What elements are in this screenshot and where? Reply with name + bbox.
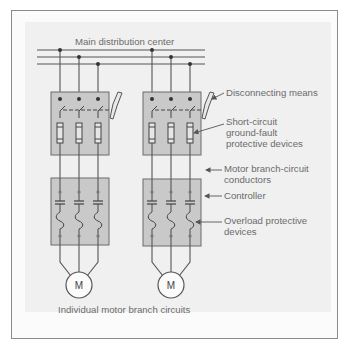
- label-short-circuit-1: Short-circuit: [226, 116, 278, 127]
- label-disconnecting-means: Disconnecting means: [226, 87, 318, 98]
- label-conductors-1: Motor branch-circuit: [224, 163, 309, 174]
- label-short-circuit-3: protective devices: [226, 138, 303, 149]
- motor-label-right: M: [167, 280, 175, 291]
- label-overload-1: Overload protective: [224, 215, 307, 226]
- title-main-distribution-center: Main distribution center: [75, 36, 175, 47]
- motor-label-left: M: [75, 280, 83, 291]
- disconnect-handle-right: [202, 92, 214, 119]
- label-conductors-2: conductors: [224, 174, 271, 185]
- bus-bars: [37, 50, 205, 64]
- branch-left: M: [51, 48, 122, 298]
- motor-branch-circuit-diagram: Main distribution center: [0, 0, 348, 347]
- label-controller: Controller: [224, 190, 266, 201]
- caption-individual-motor-branch-circuits: Individual motor branch circuits: [58, 304, 190, 315]
- branch-right: M: [143, 48, 214, 298]
- disconnect-handle-left: [110, 92, 122, 119]
- label-short-circuit-2: ground-fault: [226, 127, 278, 138]
- label-overload-2: devices: [224, 226, 257, 237]
